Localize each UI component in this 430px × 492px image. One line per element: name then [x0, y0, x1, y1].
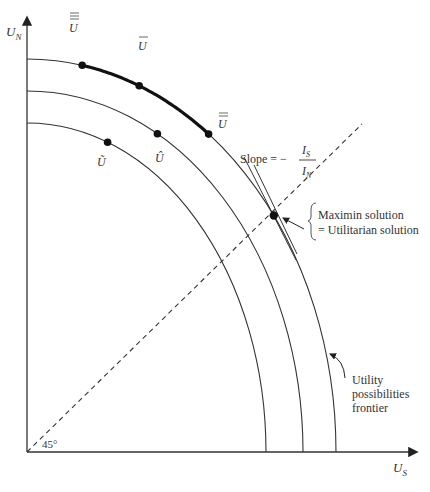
frontier-arrow — [330, 354, 345, 378]
label-u-double-bar: U — [218, 113, 228, 131]
svg-text:U: U — [69, 21, 79, 35]
svg-text:IS: IS — [301, 143, 310, 159]
svg-text:U: U — [138, 39, 148, 53]
y-axis-label: UN — [6, 24, 22, 42]
curve-outer — [27, 59, 336, 452]
point-u-bar — [135, 82, 143, 90]
maximin-arrow — [283, 218, 304, 229]
slope-label: Slope = − IS IN — [240, 143, 316, 180]
label-u-tilde: Ũ — [97, 155, 107, 169]
angle-label: 45° — [42, 438, 57, 450]
highlighted-frontier-segment — [82, 65, 208, 133]
svg-text:Slope = −: Slope = − — [240, 152, 287, 166]
svg-text:IN: IN — [301, 164, 312, 180]
label-u-bar: U — [138, 37, 148, 53]
45-degree-line — [27, 124, 362, 452]
frontier-label-line1: Utility — [352, 373, 383, 387]
point-u-tilde — [104, 139, 112, 147]
curve-middle — [27, 91, 303, 452]
x-axis-label: US — [393, 460, 407, 478]
point-u-double-bar — [205, 130, 213, 138]
frontier-label-line3: frontier — [352, 401, 388, 415]
label-u-triple-bar: U — [69, 13, 79, 35]
maximin-label-line2: = Utilitarian solution — [318, 223, 419, 237]
label-u-hat: Û — [155, 151, 165, 165]
upf-diagram: UN US 45° U U U Û Ũ Slope = − IS IN — [0, 0, 430, 492]
maximin-brace — [308, 203, 316, 240]
point-u-hat — [154, 130, 162, 138]
point-maximin — [270, 211, 278, 219]
slope-tangent-line-2 — [254, 165, 297, 254]
point-u-triple-bar — [78, 62, 86, 70]
curve-inner — [27, 123, 266, 452]
maximin-label-line1: Maximin solution — [318, 208, 404, 222]
slope-tangent-line — [244, 157, 296, 260]
svg-text:U: U — [218, 117, 228, 131]
frontier-label-line2: possibilities — [352, 387, 410, 401]
